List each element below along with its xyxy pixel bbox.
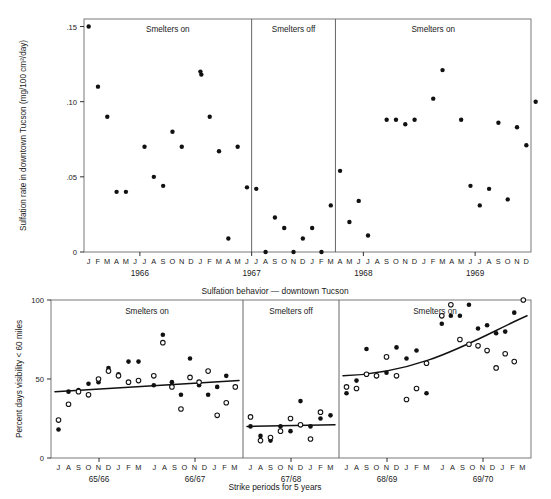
x-month-label-top: J — [87, 257, 91, 266]
data-point-open — [66, 402, 71, 407]
y-tick-label-top: .15 — [66, 23, 77, 32]
x-month-label-top: D — [188, 257, 194, 266]
data-point-sulfation — [199, 72, 203, 76]
x-month-label-top: O — [393, 257, 399, 266]
data-point-filled — [161, 332, 166, 337]
x-month-label-bottom: M — [135, 463, 141, 472]
data-point-filled — [503, 329, 508, 334]
data-point-filled — [66, 389, 71, 394]
data-point-filled — [449, 314, 454, 319]
data-point-filled — [458, 314, 463, 319]
data-point-open — [414, 386, 419, 391]
panel-label-top: Smelters off — [272, 25, 316, 34]
data-point-sulfation — [403, 122, 407, 126]
x-month-label-bottom: O — [374, 463, 380, 472]
data-point-open — [215, 413, 220, 418]
x-month-label-bottom: M — [423, 463, 429, 472]
data-point-sulfation — [319, 250, 323, 254]
period-label: 69/70 — [473, 475, 494, 484]
x-month-label-top: J — [422, 257, 426, 266]
x-month-label-top: J — [357, 257, 361, 266]
data-point-filled — [308, 424, 313, 429]
x-month-label-bottom: S — [172, 463, 177, 472]
x-month-label-top: A — [338, 257, 343, 266]
data-point-filled — [278, 424, 283, 429]
x-month-label-bottom: S — [76, 463, 81, 472]
data-point-open — [278, 429, 283, 434]
x-month-label-bottom: F — [126, 463, 131, 472]
data-point-sulfation — [366, 233, 370, 237]
data-point-open — [521, 298, 526, 303]
x-month-label-top: D — [412, 257, 418, 266]
x-month-label-bottom: N — [288, 463, 294, 472]
panel-label-top: Smelters on — [411, 25, 455, 34]
x-month-label-top: F — [431, 257, 436, 266]
data-point-filled — [512, 310, 517, 315]
chart-sulfation-rate: 0.05.10.15Sulfation rate in downtown Tuc… — [19, 19, 538, 278]
data-point-filled — [179, 393, 184, 398]
x-month-label-bottom: N — [480, 463, 486, 472]
data-point-open — [298, 423, 303, 428]
data-point-open — [394, 374, 399, 379]
data-point-sulfation — [263, 250, 267, 254]
x-month-label-top: J — [198, 257, 202, 266]
x-month-label-bottom: J — [153, 463, 157, 472]
x-month-label-bottom: O — [182, 463, 188, 472]
x-month-label-bottom: J — [441, 463, 445, 472]
trend-line — [343, 316, 527, 376]
data-point-filled — [494, 331, 499, 336]
data-point-open — [268, 435, 273, 440]
data-point-filled — [318, 416, 323, 421]
data-point-open — [106, 369, 111, 374]
x-month-label-top: A — [487, 257, 492, 266]
x-month-label-top: S — [384, 257, 389, 266]
data-point-open — [308, 437, 313, 442]
x-month-label-top: A — [263, 257, 268, 266]
x-month-label-top: A — [226, 257, 231, 266]
data-point-sulfation — [384, 118, 388, 122]
x-month-label-bottom: J — [117, 463, 121, 472]
x-month-label-bottom: S — [268, 463, 273, 472]
x-month-label-bottom: S — [460, 463, 465, 472]
x-month-label-top: M — [346, 257, 352, 266]
data-point-open — [161, 340, 166, 345]
data-point-open — [424, 361, 429, 366]
x-month-label-bottom: D — [298, 463, 304, 472]
x-month-label-bottom: D — [202, 463, 208, 472]
data-point-filled — [404, 356, 409, 361]
data-point-sulfation — [496, 121, 500, 125]
data-point-filled — [476, 326, 481, 331]
x-month-label-bottom: J — [57, 463, 61, 472]
x-month-label-top: D — [300, 257, 306, 266]
data-point-filled — [86, 381, 91, 386]
data-point-sulfation — [468, 184, 472, 188]
year-label-top: 1969 — [466, 269, 485, 278]
x-month-label-top: J — [133, 257, 137, 266]
data-point-filled — [136, 359, 141, 364]
data-point-open — [179, 407, 184, 412]
x-month-label-bottom: O — [86, 463, 92, 472]
x-month-label-bottom: A — [66, 463, 71, 472]
x-month-label-top: J — [478, 257, 482, 266]
data-point-open — [56, 418, 61, 423]
y-tick-label-top: .10 — [66, 98, 77, 107]
data-point-open — [151, 374, 156, 379]
y-tick-label-top: .05 — [66, 173, 77, 182]
x-month-label-top: O — [281, 257, 287, 266]
data-point-sulfation — [310, 226, 314, 230]
x-month-label-bottom: D — [106, 463, 112, 472]
data-point-sulfation — [217, 149, 221, 153]
data-point-open — [233, 385, 238, 390]
data-point-sulfation — [142, 145, 146, 149]
data-point-sulfation — [394, 118, 398, 122]
data-point-filled — [224, 374, 229, 379]
x-month-label-top: S — [272, 257, 277, 266]
data-point-sulfation — [487, 187, 491, 191]
x-month-label-bottom: A — [258, 463, 263, 472]
data-point-filled — [188, 356, 193, 361]
x-month-label-top: M — [123, 257, 129, 266]
trend-line — [55, 381, 239, 392]
x-month-label-top: J — [254, 257, 258, 266]
data-point-open — [476, 344, 481, 349]
data-point-sulfation — [245, 185, 249, 189]
